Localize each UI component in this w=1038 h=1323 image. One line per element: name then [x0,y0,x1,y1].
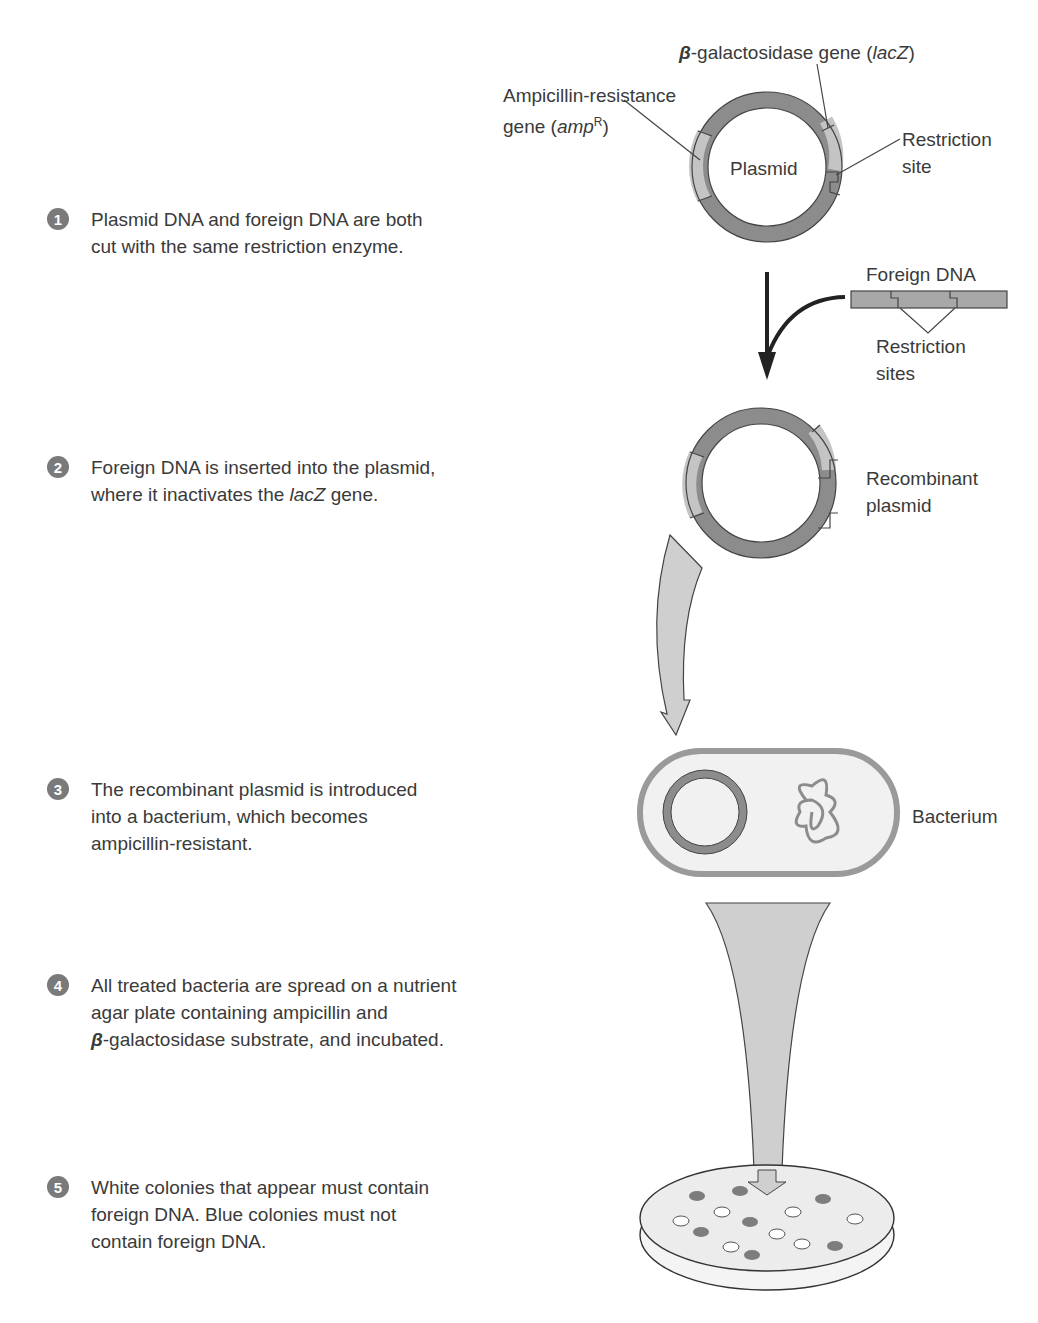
step-number-badge: 2 [47,456,69,478]
step-3: 3 The recombinant plasmid is introduced … [47,776,417,857]
step-text: The recombinant plasmid is introduced in… [91,776,417,857]
step-number-badge: 3 [47,778,69,800]
restriction-site-leader-line [836,139,900,175]
step-text: Plasmid DNA and foreign DNA are both cut… [91,206,423,260]
step-text: All treated bacteria are spread on a nut… [91,972,456,1053]
step-1: 1 Plasmid DNA and foreign DNA are both c… [47,206,423,260]
transformation-arrow [657,535,702,735]
step-5: 5 White colonies that appear must contai… [47,1174,429,1255]
step-number-badge: 5 [47,1176,69,1198]
foreign-dna-strip [851,291,1007,333]
plating-arrow [706,903,830,1195]
diagram-graphics [0,0,1038,1323]
lacz-gene-label: β-galactosidase gene (lacZ) [679,39,915,66]
petri-dish [640,1165,894,1290]
plasmid-label: Plasmid [730,155,798,182]
step-number-badge: 1 [47,208,69,230]
restriction-site-label: Restriction site [902,126,992,180]
step-text: White colonies that appear must contain … [91,1174,429,1255]
step-4: 4 All treated bacteria are spread on a n… [47,972,456,1053]
restriction-sites-label: Restriction sites [876,333,966,387]
recombinant-plasmid-label: Recombinant plasmid [866,465,978,519]
ampr-gene-label: Ampicillin-resistancegene (ampR) [503,82,676,140]
foreign-dna-label: Foreign DNA [866,261,976,288]
step-2: 2 Foreign DNA is inserted into the plasm… [47,454,435,508]
bacterium-label: Bacterium [912,803,998,830]
bacterium-cell [640,751,897,874]
insertion-arrow [758,272,845,380]
step-number-badge: 4 [47,974,69,996]
step-text: Foreign DNA is inserted into the plasmid… [91,454,435,508]
recombinant-plasmid-ring [686,408,838,558]
